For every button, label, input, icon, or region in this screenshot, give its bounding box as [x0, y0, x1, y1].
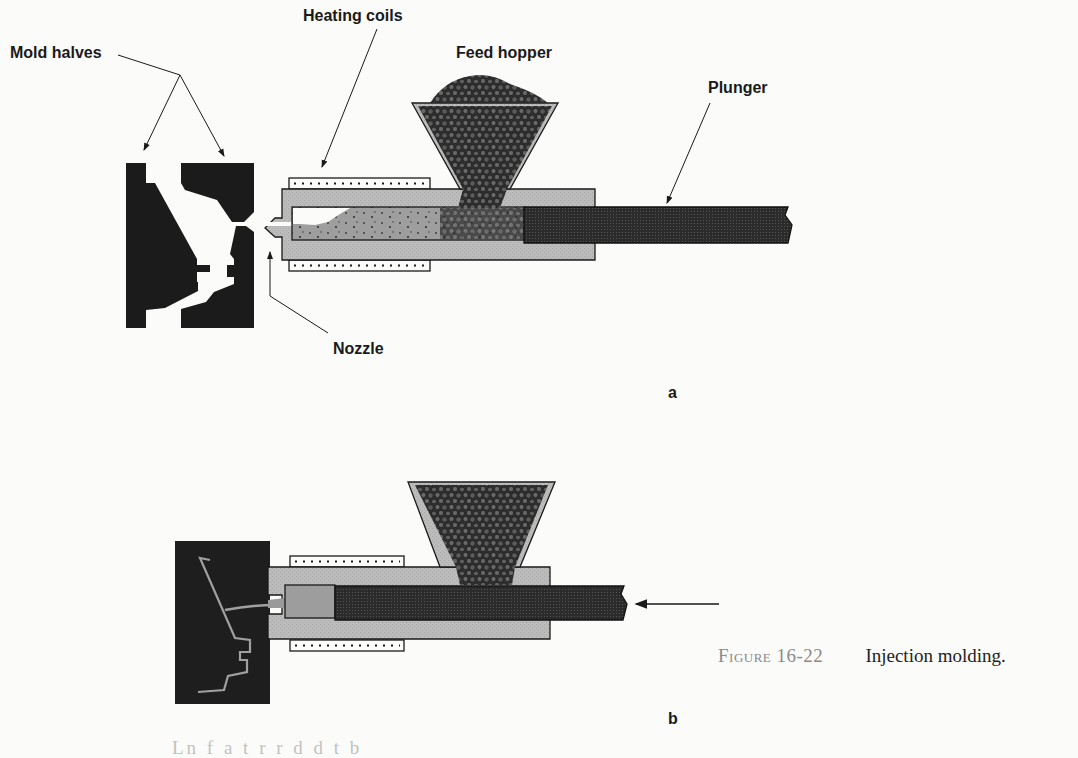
plunger: [524, 207, 792, 243]
melt-charge: [285, 585, 335, 618]
closed-mold: [175, 541, 270, 704]
leader-plunger: [667, 103, 710, 203]
panel-a-letter: a: [668, 384, 677, 402]
mold-right-half: [181, 163, 254, 222]
figure-caption-text: Injection molding.: [865, 645, 1005, 666]
panel-b-drawing: [175, 482, 719, 704]
label-nozzle: Nozzle: [333, 340, 384, 358]
heating-coil-top-b: [290, 556, 404, 567]
cutoff-body-text: Ln f a t r r d d t b: [172, 737, 362, 758]
label-heating-coils: Heating coils: [303, 7, 403, 25]
label-mold-halves: Mold halves: [10, 44, 102, 62]
leader-mold-halves: [118, 55, 180, 75]
panel-b-letter: b: [668, 710, 678, 728]
plunger-b: [335, 586, 627, 620]
label-feed-hopper: Feed hopper: [456, 44, 552, 62]
heating-coil-bottom-b: [290, 640, 404, 651]
figure-number: Figure 16-22: [718, 645, 823, 666]
leader-heating-coils: [322, 29, 377, 167]
figure-caption: Figure 16-22Injection molding.: [718, 645, 1006, 667]
label-plunger: Plunger: [708, 79, 768, 97]
panel-a-drawing: [118, 29, 792, 333]
